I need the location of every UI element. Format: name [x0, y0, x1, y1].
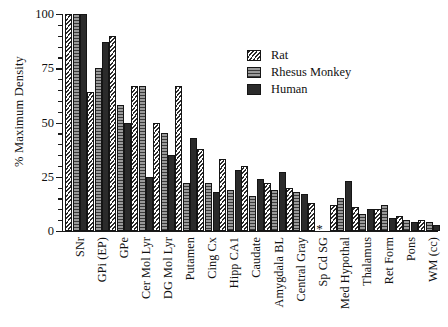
bar	[131, 86, 138, 231]
bar-group	[175, 14, 197, 231]
bar-group	[264, 14, 286, 231]
bar-group	[131, 14, 153, 231]
x-axis-tick-label: Central Gray	[295, 237, 307, 301]
legend: RatRhesus MonkeyHuman	[247, 48, 351, 99]
x-axis-tick-label: Sp Cd SG	[317, 237, 329, 287]
legend-label: Rhesus Monkey	[271, 65, 351, 80]
x-axis-tick-label: Ret Form	[383, 237, 395, 284]
bar	[433, 225, 440, 232]
plot-area: 0255075100 * SNrGPi (EP)GPeCer Mol LyrDG…	[63, 14, 438, 231]
y-axis-tick-label: 100	[35, 8, 54, 21]
bar	[426, 222, 433, 231]
bar	[403, 220, 410, 231]
bar	[161, 133, 168, 231]
y-axis-minor-tick	[58, 209, 63, 210]
y-axis-minor-tick	[58, 220, 63, 221]
y-axis-minor-tick	[58, 57, 63, 58]
bar	[241, 166, 248, 231]
y-axis-major-tick	[56, 68, 63, 69]
y-axis-minor-tick	[58, 36, 63, 37]
bar	[271, 190, 278, 231]
bar	[330, 205, 337, 231]
bar	[227, 190, 234, 231]
x-axis-tick-label: SNr	[74, 237, 86, 257]
bar-group	[286, 14, 308, 231]
bar	[286, 188, 293, 231]
x-axis-tick-label: Thalamus	[361, 237, 373, 286]
bar-group	[374, 14, 396, 231]
bar-group	[109, 14, 131, 231]
bar	[418, 220, 425, 231]
bar	[153, 123, 160, 232]
legend-item: Human	[247, 82, 351, 97]
bar-group	[418, 14, 440, 231]
legend-item: Rhesus Monkey	[247, 65, 351, 80]
y-axis-minor-tick	[58, 25, 63, 26]
bar-group	[153, 14, 175, 231]
bar-group	[87, 14, 109, 231]
bar	[175, 86, 182, 231]
y-axis-minor-tick	[58, 90, 63, 91]
bar	[293, 192, 300, 231]
bar-group	[65, 14, 87, 231]
y-axis-minor-tick	[58, 101, 63, 102]
bar	[381, 205, 388, 231]
x-axis-tick-label: Pons	[405, 237, 417, 261]
missing-data-asterisk: *	[316, 222, 323, 235]
x-axis-tick-label: Putamen	[184, 237, 196, 280]
y-axis-tick-label: 25	[42, 171, 55, 184]
legend-label: Human	[271, 82, 307, 97]
x-axis-tick-label: GPe	[118, 237, 130, 258]
y-axis-minor-tick	[58, 188, 63, 189]
bar	[117, 105, 124, 231]
bar-group: *	[308, 14, 330, 231]
y-axis-minor-tick	[58, 166, 63, 167]
x-axis-tick-label: Med Hypothal	[339, 237, 351, 309]
bar	[264, 183, 271, 231]
x-axis-tick-label: Amygdala BL	[273, 237, 285, 308]
bar	[87, 92, 94, 231]
bar-group	[352, 14, 374, 231]
bar	[308, 203, 315, 231]
legend-swatch-rat	[247, 50, 261, 61]
bar-chart-figure: % Maximum Density 0255075100 * SNrGPi (E…	[0, 0, 448, 327]
legend-swatch-rhesus	[247, 67, 261, 78]
x-axis-tick-label: Caudate	[250, 237, 262, 278]
bar	[352, 207, 359, 231]
bar-group	[396, 14, 418, 231]
y-axis-minor-tick	[58, 133, 63, 134]
bar	[396, 216, 403, 231]
bar-group	[330, 14, 352, 231]
legend-item: Rat	[247, 48, 351, 63]
bar	[219, 159, 226, 231]
legend-swatch-human	[247, 84, 261, 95]
bar-group	[241, 14, 263, 231]
y-axis-major-tick	[56, 123, 63, 124]
y-axis-minor-tick	[58, 79, 63, 80]
bar-group	[197, 14, 219, 231]
y-axis-major-tick	[56, 177, 63, 178]
y-axis-title: % Maximum Density	[12, 7, 27, 217]
bar	[95, 68, 102, 231]
bar	[183, 183, 190, 231]
bar	[374, 209, 381, 231]
bar	[197, 149, 204, 231]
bar	[73, 14, 80, 231]
x-axis-tick-label: Cer Mol Lyr	[140, 237, 152, 299]
y-axis-minor-tick	[58, 144, 63, 145]
x-axis-tick-label: GPi (EP)	[96, 237, 108, 282]
y-axis-minor-tick	[58, 112, 63, 113]
y-axis-minor-tick	[58, 198, 63, 199]
bar	[249, 196, 256, 231]
legend-label: Rat	[271, 48, 288, 63]
y-axis-minor-tick	[58, 155, 63, 156]
y-axis-major-tick	[56, 14, 63, 15]
bar	[109, 36, 116, 231]
x-axis-line	[62, 231, 438, 232]
x-axis-tick-label: Hipp CA1	[228, 237, 240, 288]
bar	[205, 183, 212, 231]
bar	[139, 86, 146, 231]
x-axis-tick-label: DG Mol Lyr	[162, 237, 174, 299]
x-axis-tick-label: WM (cc)	[427, 237, 439, 282]
bar	[337, 198, 344, 231]
